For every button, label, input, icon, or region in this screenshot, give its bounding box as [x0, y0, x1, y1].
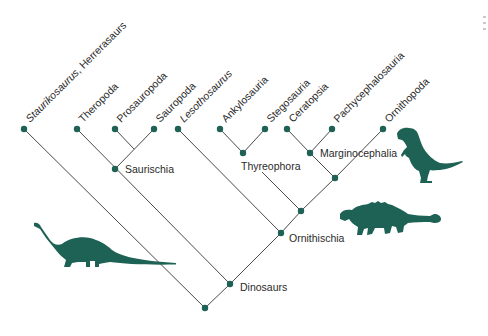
node-prosauropoda	[112, 126, 118, 132]
node-sauropoda	[151, 126, 157, 132]
edge-mark	[483, 28, 486, 30]
node-pachycephalosauria	[329, 126, 335, 132]
branch-ornithischia-lesothosaurus	[178, 129, 281, 233]
sauropod-silhouette	[34, 223, 176, 267]
node-saurischia	[112, 166, 118, 172]
dinosaur-cladogram: Staurikosaurus, Herrerasaurs Theropoda P…	[0, 0, 488, 336]
branch-genasauria-cerapoda	[301, 178, 335, 211]
edge-mark	[483, 22, 486, 24]
leaf-label-staurikosaurus: Staurikosaurus, Herrerasaurs	[23, 19, 128, 124]
leaf-labels: Staurikosaurus, Herrerasaurs Theropoda P…	[23, 19, 431, 124]
node-cerapoda	[332, 175, 338, 181]
branch-thyreophora-ankylosauria	[220, 129, 243, 153]
ankylosaur-silhouette	[340, 201, 441, 235]
branch-ornithischia-genasauria	[281, 211, 301, 233]
branch-dinosaurs-ornithischia	[230, 233, 281, 284]
clade-label-ornithischia: Ornithischia	[289, 232, 345, 244]
edge-mark	[483, 16, 486, 18]
branch-genasauria-thyreophora	[262, 172, 301, 211]
branch-root-dinosaurs	[205, 284, 230, 308]
ornithopod-silhouette	[397, 128, 463, 183]
node-root	[202, 305, 208, 311]
node-ceratopsia	[284, 126, 290, 132]
node-ornithopoda	[380, 126, 386, 132]
node-dinosaurs	[227, 281, 233, 287]
node-theropoda	[74, 126, 80, 132]
clade-label-thyreophora: Thyreophora	[241, 160, 301, 172]
node-genasauria	[298, 208, 304, 214]
node-thyreophora	[240, 150, 246, 156]
branch-root-staurikosaurus	[24, 129, 205, 308]
node-marginocephalia	[307, 150, 313, 156]
leaf-label-staurikosaurus-rest: , Herrerasaurs	[72, 19, 128, 75]
leaf-label-ornithopoda: Ornithopoda	[382, 75, 431, 124]
page-edge-marks	[483, 16, 486, 40]
node-ornithischia	[278, 230, 284, 236]
node-stegosauria	[262, 126, 268, 132]
node-staurikosaurus	[21, 126, 27, 132]
branch-marginocephalia-ceratopsia	[287, 129, 310, 153]
node-ankylosauria	[217, 126, 223, 132]
leaf-label-theropoda: Theropoda	[76, 80, 121, 125]
node-lesothosaurus	[175, 126, 181, 132]
clade-label-dinosaurs: Dinosaurs	[240, 281, 287, 293]
branch-thyreophora-stegosauria	[243, 129, 265, 153]
branch-prosauropoda	[115, 129, 134, 149]
clade-label-saurischia: Saurischia	[125, 163, 174, 175]
leaf-label-staurikosaurus-italic: Staurikosaurus	[23, 66, 82, 125]
clade-label-marginocephalia: Marginocephalia	[320, 147, 397, 159]
